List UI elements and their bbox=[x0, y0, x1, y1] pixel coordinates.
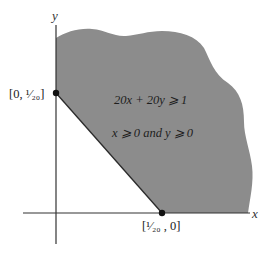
constraint-label: x ⩾ 0 and y ⩾ 0 bbox=[111, 126, 194, 140]
feasible-region-diagram: y x [0, ¹⁄₂₀] [¹⁄₂₀ , 0] 20x + 20y ⩾ 1 x… bbox=[0, 0, 272, 254]
y-axis-label: y bbox=[50, 8, 58, 23]
y-intercept-point bbox=[53, 90, 59, 96]
y-intercept-label: [0, ¹⁄₂₀] bbox=[9, 87, 44, 101]
x-intercept-point bbox=[159, 210, 165, 216]
x-intercept-label: [¹⁄₂₀ , 0] bbox=[142, 219, 181, 233]
shaded-region bbox=[56, 29, 253, 213]
inequality-label: 20x + 20y ⩾ 1 bbox=[114, 93, 187, 107]
x-axis-label: x bbox=[251, 206, 258, 221]
